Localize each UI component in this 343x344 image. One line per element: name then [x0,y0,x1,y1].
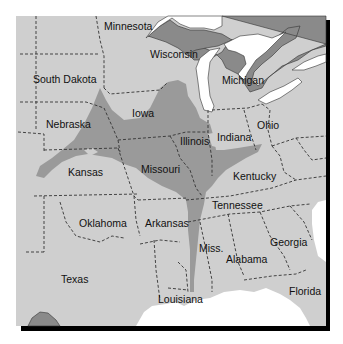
label-michigan: Michigan [222,74,264,86]
label-alabama: Alabama [226,253,268,265]
label-iowa: Iowa [132,107,154,119]
label-wisconsin: Wisconsin [150,48,198,60]
label-louisiana: Louisiana [158,293,203,305]
label-oklahoma: Oklahoma [79,217,127,229]
map-svg: Minnesota Wisconsin Michigan South Dakot… [0,0,343,344]
map-shadow-bottom [21,326,330,331]
label-texas: Texas [61,273,88,285]
label-indiana: Indiana [217,131,252,143]
label-missouri: Missouri [141,163,180,175]
label-kentucky: Kentucky [233,170,277,182]
label-georgia: Georgia [270,236,308,248]
label-arkansas: Arkansas [145,217,189,229]
label-tennessee: Tennessee [212,199,263,211]
label-minnesota: Minnesota [104,20,153,32]
label-kansas: Kansas [68,166,103,178]
label-illinois: Illinois [180,135,209,147]
label-nebraska: Nebraska [46,118,91,130]
label-mississippi: Miss. [199,242,224,254]
label-ohio: Ohio [257,119,279,131]
label-florida: Florida [289,285,321,297]
label-south-dakota: South Dakota [33,73,97,85]
map-figure: Minnesota Wisconsin Michigan South Dakot… [0,0,343,344]
